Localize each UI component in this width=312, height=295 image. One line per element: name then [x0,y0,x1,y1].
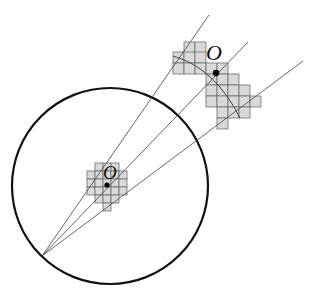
grid-cell [119,179,127,187]
ray-line [42,15,209,256]
grid-cell [206,96,217,107]
grid-cell [217,96,228,107]
grid-cell [228,74,239,85]
grid-cell [217,107,228,118]
center-dot-large [213,70,219,76]
grid-cell [111,187,119,195]
grid-cell [239,85,250,96]
grid-cell [103,195,111,203]
grid-cell [195,42,206,53]
grid-cell [239,107,250,118]
grid-cell [195,52,206,63]
label-o-small: O [103,162,117,183]
grid-cell [217,74,228,85]
grid-cell [87,187,95,195]
grid-cell [87,171,95,179]
diagram-canvas: O O [0,0,312,295]
grid-cell [228,85,239,96]
grid-cell [95,179,103,187]
ray-line [42,61,303,256]
label-o-large: O [206,40,222,65]
grid-cell [250,96,261,107]
grid-cell [184,52,195,63]
center-dot-small [104,182,109,187]
grid-cell [206,85,217,96]
rays [42,15,303,256]
